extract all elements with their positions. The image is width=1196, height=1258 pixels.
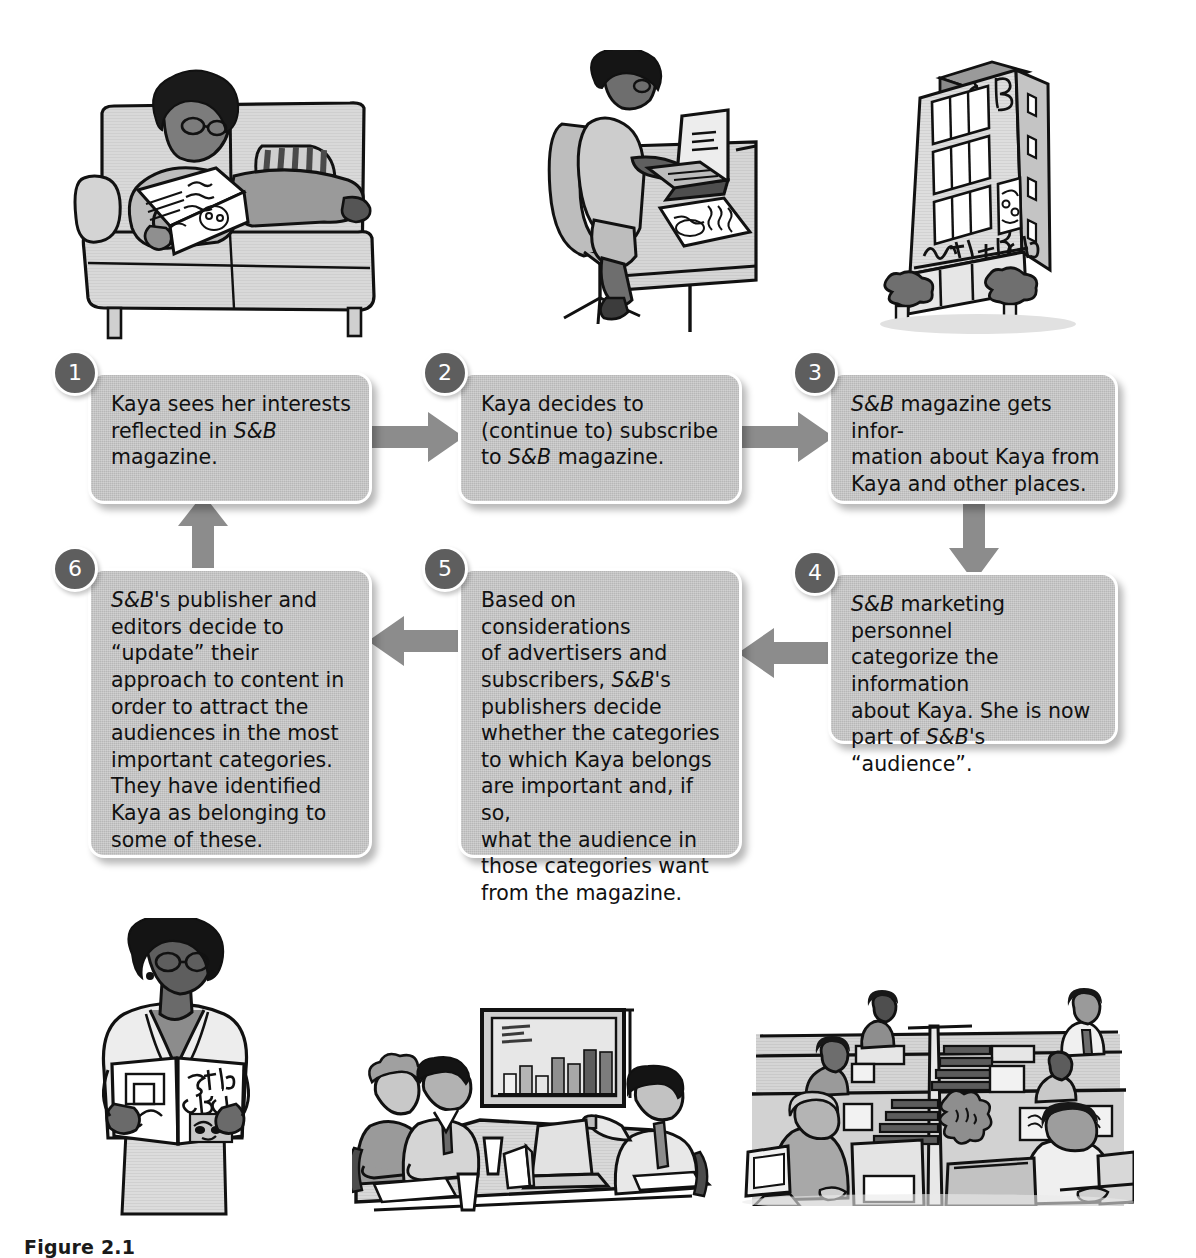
step-number-badge-3: 3 bbox=[792, 350, 838, 396]
flow-step-box-6[interactable]: S&B's publisher and editors decide to “u… bbox=[88, 568, 372, 858]
flow-step-box-4[interactable]: S&B marketing personnel categorize the i… bbox=[828, 572, 1118, 744]
marketing-meeting-illustration bbox=[352, 988, 712, 1226]
arrow-6-to-1 bbox=[176, 496, 230, 576]
flow-step-text-3: S&B magazine gets infor- mation about Ka… bbox=[851, 391, 1101, 498]
flow-step-box-1[interactable]: Kaya sees her interests reflected in S&B… bbox=[88, 372, 372, 504]
figure-caption: Figure 2.1 bbox=[24, 1236, 135, 1258]
woman-reading-on-couch-illustration bbox=[62, 58, 392, 343]
step-number-badge-1: 1 bbox=[52, 350, 98, 396]
flow-step-box-5[interactable]: Based on considerations of advertisers a… bbox=[458, 568, 742, 858]
office-cubicles-illustration bbox=[742, 978, 1134, 1206]
flow-step-text-4: S&B marketing personnel categorize the i… bbox=[851, 591, 1101, 777]
flow-step-text-1: Kaya sees her interests reflected in S&B… bbox=[111, 391, 355, 471]
flow-step-box-2[interactable]: Kaya decides to (continue to) subscribe … bbox=[458, 372, 742, 504]
step-number-badge-6: 6 bbox=[52, 546, 98, 592]
arrow-3-to-4 bbox=[947, 496, 1001, 584]
step-number-badge-2: 2 bbox=[422, 350, 468, 396]
magazine-office-building-illustration bbox=[858, 52, 1148, 342]
flow-step-box-3[interactable]: S&B magazine gets infor- mation about Ka… bbox=[828, 372, 1118, 504]
arrow-5-to-6 bbox=[366, 614, 466, 668]
step-number-badge-5: 5 bbox=[422, 546, 468, 592]
flow-step-text-2: Kaya decides to (continue to) subscribe … bbox=[481, 391, 725, 471]
step-number-badge-4: 4 bbox=[792, 550, 838, 596]
arrow-2-to-3 bbox=[736, 410, 836, 464]
flow-step-text-5: Based on considerations of advertisers a… bbox=[481, 587, 725, 907]
arrow-4-to-5 bbox=[736, 626, 836, 680]
arrow-1-to-2 bbox=[366, 410, 466, 464]
woman-at-laptop-desk-illustration bbox=[540, 50, 810, 342]
flow-step-text-6: S&B's publisher and editors decide to “u… bbox=[111, 587, 355, 853]
woman-standing-reading-illustration bbox=[64, 918, 304, 1218]
